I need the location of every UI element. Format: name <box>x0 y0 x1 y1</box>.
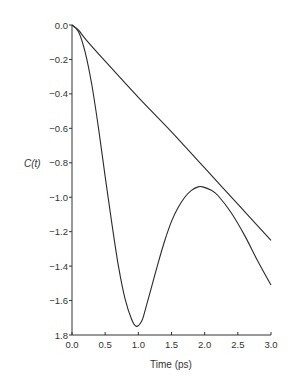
x-tick-label: 1.0 <box>132 339 145 350</box>
y-tick-label: −0.6 <box>49 123 68 134</box>
x-tick-label: 3.0 <box>264 339 277 350</box>
x-tick-label: 2.0 <box>198 339 211 350</box>
y-tick-label: −0.8 <box>49 157 68 168</box>
x-tick-label: 1.5 <box>165 339 178 350</box>
y-tick-label: −1.2 <box>49 226 68 237</box>
series-line-oscillating <box>72 25 271 326</box>
y-axis-label: C(t) <box>24 158 41 169</box>
series-line-linear <box>72 25 271 240</box>
y-tick-label: −1.0 <box>49 192 68 203</box>
y-ticks: 0.0−0.2−0.4−0.6−0.8−1.0−1.2−1.4−1.61.8 <box>49 20 72 341</box>
y-tick-label: −1.4 <box>49 261 68 272</box>
y-tick-label: −0.4 <box>49 88 68 99</box>
plot-lines <box>72 25 271 326</box>
x-tick-label: 2.5 <box>231 339 244 350</box>
line-chart: 0.0−0.2−0.4−0.6−0.8−1.0−1.2−1.4−1.61.8 0… <box>0 0 292 389</box>
x-tick-label: 0.0 <box>65 339 78 350</box>
y-tick-label: −1.6 <box>49 295 68 306</box>
y-tick-label: 0.0 <box>55 20 68 31</box>
x-tick-label: 0.5 <box>99 339 112 350</box>
y-tick-label: −0.2 <box>49 54 68 65</box>
x-axis-label: Time (ps) <box>150 359 192 370</box>
